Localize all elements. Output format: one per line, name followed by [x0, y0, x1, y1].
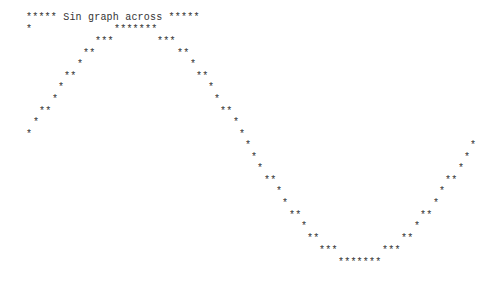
graph-stars: **	[220, 106, 232, 118]
graph-stars: *	[233, 117, 239, 129]
graph-stars: *	[464, 152, 470, 164]
graph-stars: *	[214, 94, 220, 106]
graph-stars: *	[458, 163, 464, 175]
graph-stars: *	[77, 59, 83, 71]
graph-stars: **	[401, 233, 413, 245]
graph-title: ***** Sin graph across *****	[26, 12, 200, 24]
graph-stars: *	[470, 140, 476, 152]
graph-stars: **	[83, 48, 95, 60]
graph-stars: **	[264, 175, 276, 187]
graph-stars: *	[433, 198, 439, 210]
graph-stars: **	[39, 106, 51, 118]
graph-stars: *	[190, 59, 196, 71]
graph-stars: *	[439, 186, 445, 198]
graph-stars: *	[282, 198, 288, 210]
graph-stars: *	[301, 221, 307, 233]
graph-stars: *	[58, 82, 64, 94]
graph-stars: **	[196, 71, 208, 83]
graph-stars: *	[414, 221, 420, 233]
graph-stars: *	[208, 82, 214, 94]
graph-stars: **	[177, 48, 189, 60]
graph-stars: *	[276, 186, 282, 198]
graph-stars: **	[289, 210, 301, 222]
graph-stars: **	[445, 175, 457, 187]
graph-stars: **	[64, 71, 76, 83]
graph-stars: *	[245, 140, 251, 152]
graph-stars: ***	[95, 36, 114, 48]
graph-stars: **	[307, 233, 319, 245]
ascii-sine-graph: ***** Sin graph across ***** ***********…	[0, 0, 501, 292]
graph-stars: *	[257, 163, 263, 175]
graph-stars: *	[26, 129, 32, 141]
graph-stars: *	[26, 24, 32, 36]
graph-stars: *******	[338, 257, 381, 269]
graph-stars: *******	[114, 24, 157, 36]
graph-stars: **	[420, 210, 432, 222]
graph-stars: ***	[319, 245, 338, 257]
graph-stars: ***	[382, 245, 401, 257]
graph-stars: *	[33, 117, 39, 129]
graph-stars: ***	[157, 36, 176, 48]
graph-stars: *	[52, 94, 58, 106]
